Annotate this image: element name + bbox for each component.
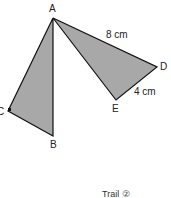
vertex-label-e: E [112, 104, 119, 114]
vertex-label-c: C [0, 107, 4, 117]
right-angle-marker [8, 108, 11, 111]
triangle-diagram [0, 0, 171, 198]
caption: Trail ② [102, 189, 130, 198]
measure-ad: 8 cm [106, 30, 128, 40]
vertex-label-d: D [160, 62, 167, 72]
triangle-abc [8, 18, 53, 136]
vertex-label-a: A [49, 4, 56, 14]
measure-de: 4 cm [134, 87, 156, 97]
vertex-label-b: B [50, 140, 57, 150]
